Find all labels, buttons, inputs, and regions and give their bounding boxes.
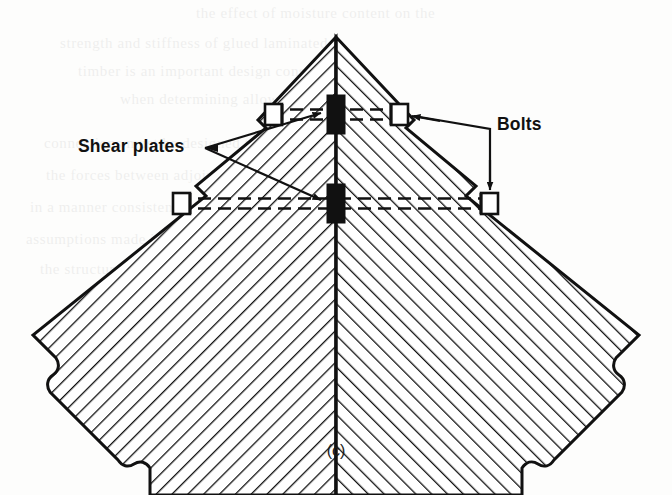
figure-container: the effect of moisture content on the st… [0, 0, 672, 495]
upper-shear-plate [327, 95, 345, 134]
upper-right-bolt [391, 104, 408, 125]
ghost-line: the effect of moisture content on the [196, 5, 435, 21]
bolts-label: Bolts [497, 114, 542, 134]
lower-right-bolt [481, 193, 498, 214]
ghost-line: strength and stiffness of glued laminate… [60, 35, 328, 51]
technical-diagram: the effect of moisture content on the st… [0, 0, 672, 495]
shear-plates-label: Shear plates [78, 136, 185, 156]
upper-left-bolt [265, 104, 282, 125]
figure-caption: (c) [327, 442, 346, 459]
lower-left-bolt [173, 193, 190, 214]
lower-shear-plate [327, 184, 345, 223]
